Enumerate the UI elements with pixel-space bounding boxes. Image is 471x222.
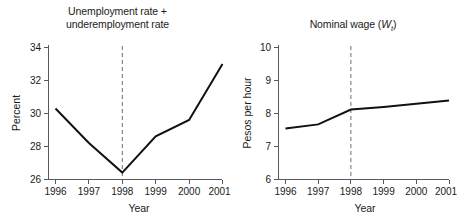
x-axis-title: Year <box>354 202 376 214</box>
y-tick-label-2: 30 <box>30 108 42 119</box>
two-panel-line-chart-figure: Unemployment rate + underemployment rate <box>0 0 471 222</box>
x-tick-label-3: 1999 <box>145 186 168 197</box>
x-tick-label-0: 1996 <box>44 186 67 197</box>
x-tick-label-5: 2001 <box>208 186 231 197</box>
y-tick-label-3: 9 <box>265 75 271 86</box>
y-axis-title: Pesos per hour <box>241 77 253 149</box>
y-tick-label-1: 28 <box>30 141 42 152</box>
y-tick-label-1: 7 <box>265 141 271 152</box>
x-axis-title: Year <box>128 202 150 214</box>
y-axis-title: Percent <box>10 95 22 131</box>
y-tick-marks <box>274 48 279 180</box>
x-tick-marks <box>56 180 223 185</box>
x-tick-label-5: 2001 <box>435 186 458 197</box>
y-tick-marks <box>44 48 49 180</box>
y-tick-label-0: 6 <box>265 174 271 185</box>
x-tick-marks <box>286 180 450 185</box>
x-tick-label-2: 1998 <box>340 186 363 197</box>
x-tick-label-4: 2000 <box>405 186 428 197</box>
y-tick-label-0: 26 <box>30 174 42 185</box>
data-line-unemployment <box>56 64 223 173</box>
y-tick-label-4: 34 <box>30 42 42 53</box>
plot-area-unemployment: 26 28 30 32 34 1996 1997 1998 1999 2000 … <box>0 0 235 222</box>
y-tick-label-4: 10 <box>260 42 272 53</box>
x-tick-label-1: 1997 <box>307 186 330 197</box>
data-line-nominal-wage <box>286 100 450 128</box>
x-tick-label-0: 1996 <box>274 186 297 197</box>
chart-panel-unemployment: Unemployment rate + underemployment rate <box>0 0 235 222</box>
chart-panel-nominal-wage: Nominal wage (Wt) <box>235 0 471 222</box>
y-tick-label-2: 8 <box>265 108 271 119</box>
x-tick-label-4: 2000 <box>178 186 201 197</box>
plot-area-nominal-wage: 6 7 8 9 10 1996 1997 1998 1999 2000 2001… <box>235 0 471 222</box>
x-tick-label-3: 1999 <box>372 186 395 197</box>
x-tick-label-1: 1997 <box>78 186 101 197</box>
x-tick-label-2: 1998 <box>111 186 134 197</box>
y-tick-label-3: 32 <box>30 75 42 86</box>
